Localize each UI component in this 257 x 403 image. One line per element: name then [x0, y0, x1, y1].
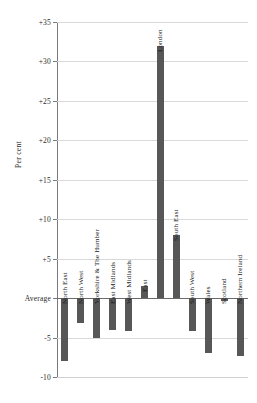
- gridline: [57, 61, 248, 62]
- y-tick-label: -5: [44, 333, 51, 342]
- y-tick-label: -10: [40, 373, 51, 382]
- gridline: [57, 22, 248, 23]
- plot-area: North EastNorth WestYorkshire & The Humb…: [57, 22, 248, 377]
- bar-category-label: Wales: [204, 286, 212, 304]
- gridline: [57, 219, 248, 220]
- gridline: [57, 101, 248, 102]
- y-tick-label: +5: [43, 254, 51, 263]
- bar-chart: Per cent North EastNorth WestYorkshire &…: [0, 0, 257, 403]
- bar-category-label: South West: [188, 271, 196, 304]
- bar-category-label: Scotland: [220, 278, 228, 304]
- bar-category-label: East Midlands: [109, 262, 117, 304]
- bar-category-label: Northern Ireland: [236, 255, 244, 304]
- gridline: [57, 377, 248, 378]
- gridline: [57, 140, 248, 141]
- bar-category-label: Yorkshire & The Humber: [93, 229, 101, 304]
- bar-category-label: West Midlands: [125, 260, 133, 304]
- gridline: [57, 180, 248, 181]
- bar: [61, 298, 68, 361]
- tick-mark: [53, 101, 57, 102]
- bar: [157, 46, 164, 298]
- y-axis-label: Per cent: [14, 120, 23, 190]
- bar-category-label: South East: [172, 209, 180, 241]
- y-tick-label: Average: [25, 294, 51, 303]
- y-tick-label: +25: [39, 96, 51, 105]
- bar-category-label: London: [156, 29, 164, 52]
- tick-mark: [53, 219, 57, 220]
- tick-mark: [53, 298, 57, 299]
- y-tick-label: +15: [39, 175, 51, 184]
- tick-mark: [53, 22, 57, 23]
- bar-category-label: North East: [61, 272, 69, 304]
- tick-mark: [53, 140, 57, 141]
- tick-mark: [53, 61, 57, 62]
- tick-mark: [53, 259, 57, 260]
- y-tick-label: +35: [39, 18, 51, 27]
- tick-mark: [53, 338, 57, 339]
- bar-category-label: East: [141, 280, 149, 293]
- bar: [93, 298, 100, 338]
- bar: [237, 298, 244, 356]
- y-tick-label: +30: [39, 57, 51, 66]
- gridline: [57, 259, 248, 260]
- gridline: [57, 338, 248, 339]
- y-tick-label: +10: [39, 215, 51, 224]
- bar: [173, 235, 180, 298]
- bar-category-label: North West: [77, 271, 85, 304]
- tick-mark: [53, 377, 57, 378]
- tick-mark: [53, 180, 57, 181]
- y-tick-label: +20: [39, 136, 51, 145]
- bar: [205, 298, 212, 353]
